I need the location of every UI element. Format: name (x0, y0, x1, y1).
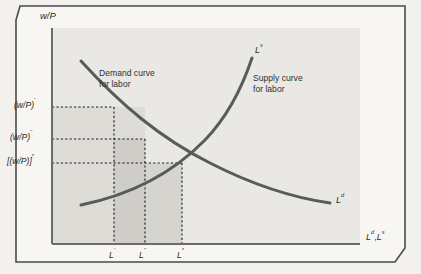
y-tick-sup-2: * (32, 153, 34, 159)
y-tick-label-wp-prime: (w/P)' (14, 101, 35, 110)
y-tick-label-wp-star: [(w/P)]* (7, 157, 34, 166)
x-axis-title-demand-sup: d (371, 229, 374, 235)
figure-canvas: w/P Ld,Ls (w/P)' (w/P)'' [(w/P)]* L' L''… (0, 0, 421, 274)
demand-annotation-line2: for labor (99, 79, 155, 90)
x-axis-title: Ld,Ls (366, 233, 384, 242)
x-axis-title-supply: L (377, 232, 382, 242)
y-tick-sup-0: ' (34, 97, 35, 103)
y-tick-text-0: (w/P) (14, 100, 34, 110)
y-tick-text-2: [(w/P)] (7, 156, 32, 166)
x-tick-label-l-prime: L' (109, 251, 115, 260)
x-tick-label-l-star: L* (177, 251, 184, 260)
x-tick-sup-1: '' (144, 247, 146, 253)
y-tick-label-wp-double-prime: (w/P)'' (10, 133, 32, 142)
demand-curve-annotation: Demand curve for labor (99, 68, 155, 90)
supply-curve-annotation: Supply curve for labor (253, 73, 303, 95)
supply-curve-label: Ls (255, 46, 263, 55)
supply-annotation-line2: for labor (253, 84, 303, 95)
x-tick-label-l-double-prime: L'' (139, 251, 146, 260)
x-tick-sup-2: * (182, 247, 184, 253)
y-tick-text-1: (w/P) (10, 132, 30, 142)
shaded-region-dark-2 (145, 163, 182, 244)
x-tick-sup-0: ' (114, 247, 115, 253)
supply-annotation-line1: Supply curve (253, 73, 303, 84)
demand-curve-label: Ld (336, 196, 344, 205)
demand-curve-label-sup: d (341, 192, 344, 198)
demand-annotation-line1: Demand curve (99, 68, 155, 79)
diagram-svg (0, 0, 421, 274)
supply-curve-label-sup: s (260, 42, 263, 48)
y-tick-sup-1: '' (30, 129, 32, 135)
y-axis-title: w/P (40, 11, 56, 21)
